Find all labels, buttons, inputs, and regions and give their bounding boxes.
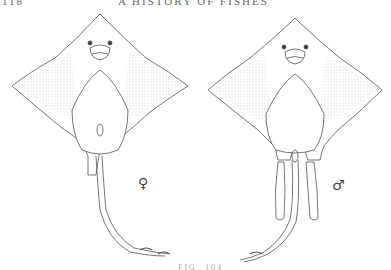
male-skate-drawing bbox=[208, 18, 382, 262]
skate-illustration: ♀ ♂ bbox=[0, 0, 391, 262]
female-skate-drawing bbox=[12, 14, 188, 256]
female-symbol: ♀ bbox=[138, 175, 148, 191]
figure-caption: FIG. 104 bbox=[178, 263, 223, 270]
male-symbol: ♂ bbox=[332, 177, 345, 193]
